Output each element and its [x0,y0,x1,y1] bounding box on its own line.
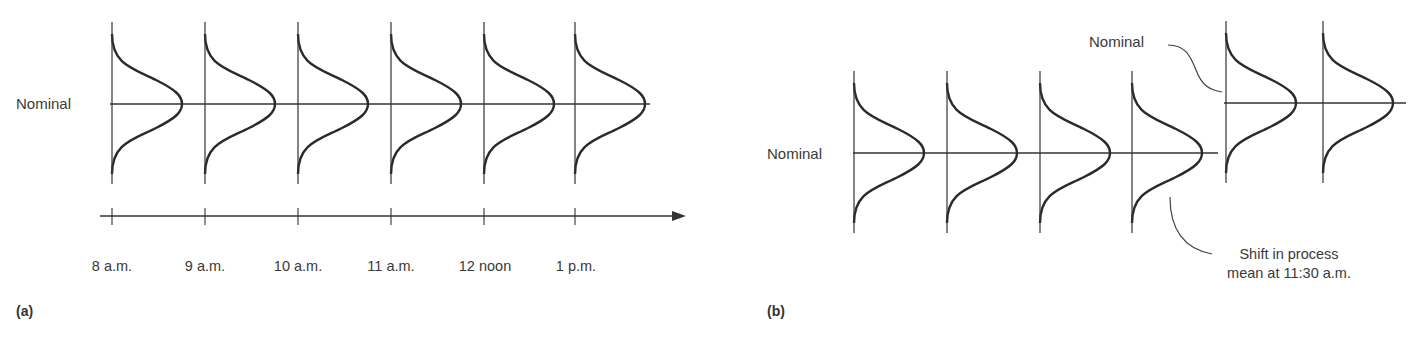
distribution-1pm [575,22,645,184]
panel-label-b: (b) [767,303,785,319]
tick-label-10am: 10 a.m. [274,258,322,274]
shift-annotation-line1: Shift in process [1214,245,1364,264]
tick-label-8am: 8 a.m. [92,258,132,274]
tick-label-1pm: 1 p.m. [556,258,596,274]
nominal-label-b-lower: Nominal [767,145,822,162]
nominal-label-b-upper: Nominal [1089,33,1144,50]
tick-label-12noon: 12 noon [459,258,511,274]
tick-label-9am: 9 a.m. [185,258,225,274]
nominal-label-a: Nominal [16,95,71,112]
distribution-12noon [484,22,554,184]
panel-b-distributions [853,21,1406,254]
distribution-b-shifted-2 [1323,21,1393,183]
process-mean-diagram [0,0,1415,339]
distribution-10am [298,22,368,184]
shift-annotation: Shift in process mean at 11:30 a.m. [1214,245,1364,283]
distribution-b-shifted-1 [1226,21,1296,183]
distribution-b-4 [1132,71,1202,233]
distribution-b-1 [854,71,924,233]
shift-annotation-line2: mean at 11:30 a.m. [1214,264,1364,283]
panel-label-a: (a) [16,303,33,319]
distribution-b-3 [1040,71,1110,233]
nominal-leader-line [1168,45,1222,92]
distribution-11am [391,22,461,184]
distribution-9am [205,22,275,184]
time-axis [100,208,686,225]
panel-a-distributions [110,22,650,184]
distribution-b-2 [947,71,1017,233]
distribution-8am [112,22,182,184]
tick-label-11am: 11 a.m. [367,258,414,274]
arrow-head-icon [672,211,686,221]
shift-leader-line [1170,197,1212,254]
